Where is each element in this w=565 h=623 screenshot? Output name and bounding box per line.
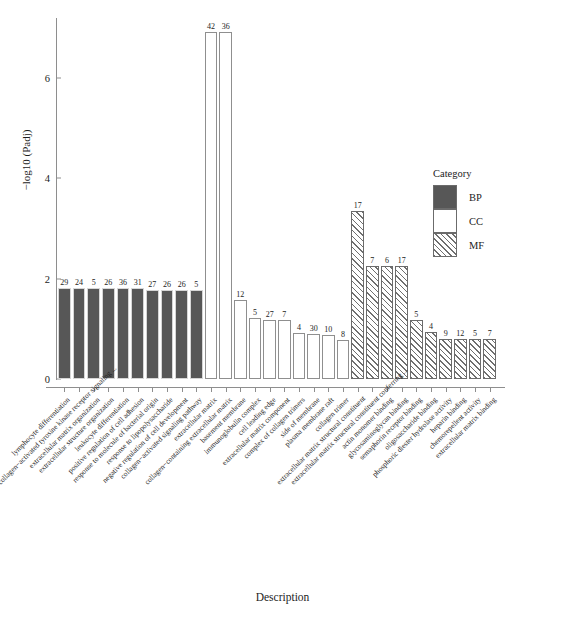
bar-mf[interactable]: 9 [439, 339, 452, 379]
x-tick-mark [240, 387, 241, 392]
bar-count-label: 27 [266, 311, 274, 321]
bar-count-label: 26 [104, 279, 112, 289]
legend-items: BPCCMF [433, 185, 553, 257]
bar-cc[interactable]: 7 [278, 320, 291, 379]
bar-cc[interactable]: 36 [219, 32, 232, 379]
x-tick-mark [460, 387, 461, 392]
legend-label: MF [469, 240, 484, 251]
x-tick-mark [196, 387, 197, 392]
bar-count-label: 5 [414, 311, 418, 321]
x-tick-mark [79, 387, 80, 392]
x-tick-mark [372, 387, 373, 392]
bar-mf[interactable]: 17 [351, 211, 364, 379]
bar-count-label: 4 [297, 324, 301, 334]
y-axis-label: −log10 (Padj) [20, 130, 32, 191]
bar-count-label: 7 [488, 330, 492, 340]
bar-count-label: 7 [370, 257, 374, 267]
bar-count-label: 5 [194, 281, 198, 291]
x-tick-mark [490, 387, 491, 392]
x-tick-mark [475, 387, 476, 392]
y-tick-label: 0 [28, 374, 56, 385]
x-tick-mark [402, 387, 403, 392]
legend-title: Category [433, 168, 553, 179]
bar-bp[interactable]: 27 [146, 290, 159, 379]
bar-count-label: 6 [385, 257, 389, 267]
x-tick-mark [226, 387, 227, 392]
bar-cc[interactable]: 42 [205, 32, 218, 379]
y-tick-label: 6 [28, 73, 56, 84]
bar-count-label: 5 [253, 309, 257, 319]
x-axis-label: Description [0, 591, 565, 603]
legend-label: BP [469, 192, 482, 203]
bar-count-label: 30 [310, 325, 318, 335]
bar-bp[interactable]: 36 [117, 288, 130, 379]
bar-mf[interactable]: 4 [425, 332, 438, 379]
bar-count-label: 8 [341, 331, 345, 341]
x-tick-mark [270, 387, 271, 392]
bar-mf[interactable]: 5 [410, 320, 423, 379]
bar-count-label: 36 [119, 279, 127, 289]
bar-cc[interactable]: 10 [322, 335, 335, 379]
go-enrichment-bar-chart: 0246 −log10 (Padj) 292452636312726265423… [0, 0, 565, 623]
legend-item-cc[interactable]: CC [433, 209, 553, 233]
x-tick-mark [138, 387, 139, 392]
bar-cc[interactable]: 4 [293, 333, 306, 379]
bar-count-label: 26 [178, 281, 186, 291]
plot-area: 2924526363127262654236125277430108177617… [57, 18, 497, 379]
bar-mf[interactable]: 17 [395, 266, 408, 379]
bar-mf[interactable]: 7 [483, 339, 496, 379]
bar-cc[interactable]: 27 [263, 320, 276, 379]
bar-cc[interactable]: 8 [337, 340, 350, 379]
bar-count-label: 26 [163, 281, 171, 291]
x-tick-mark [123, 387, 124, 392]
bar-bp[interactable]: 26 [161, 290, 174, 379]
bar-count-label: 29 [60, 279, 68, 289]
x-tick-mark [108, 387, 109, 392]
bar-mf[interactable]: 12 [454, 339, 467, 379]
x-axis-line [46, 387, 505, 388]
bar-cc[interactable]: 30 [307, 334, 320, 379]
x-tick-mark [255, 387, 256, 392]
x-tick-mark [167, 387, 168, 392]
x-tick-mark [64, 387, 65, 392]
bar-bp[interactable]: 5 [190, 290, 203, 379]
bar-bp[interactable]: 31 [131, 288, 144, 379]
bar-count-label: 10 [324, 326, 332, 336]
y-tick-label: 2 [28, 273, 56, 284]
bar-count-label: 17 [354, 202, 362, 212]
x-tick-mark [284, 387, 285, 392]
x-tick-mark [314, 387, 315, 392]
bar-bp[interactable]: 29 [58, 288, 71, 379]
bar-count-label: 17 [398, 257, 406, 267]
bar-count-label: 24 [75, 279, 83, 289]
legend-item-mf[interactable]: MF [433, 233, 553, 257]
legend-item-bp[interactable]: BP [433, 185, 553, 209]
bar-count-label: 7 [282, 311, 286, 321]
bar-mf[interactable]: 5 [469, 339, 482, 379]
bar-count-label: 12 [236, 291, 244, 301]
legend-swatch-bp [433, 185, 457, 209]
bar-bp[interactable]: 5 [87, 288, 100, 379]
bar-count-label: 12 [456, 330, 464, 340]
legend-label: CC [469, 216, 483, 227]
bar-bp[interactable]: 24 [73, 288, 86, 379]
bar-count-label: 42 [207, 23, 215, 33]
x-tick-mark [182, 387, 183, 392]
bar-count-label: 9 [444, 330, 448, 340]
bar-mf[interactable]: 6 [381, 266, 394, 379]
bar-mf[interactable]: 7 [366, 266, 379, 379]
bar-count-label: 5 [473, 330, 477, 340]
x-tick-mark [152, 387, 153, 392]
x-tick-mark [431, 387, 432, 392]
bar-cc[interactable]: 12 [234, 300, 247, 379]
x-tick-mark [446, 387, 447, 392]
x-tick-mark [343, 387, 344, 392]
x-tick-mark [328, 387, 329, 392]
legend: Category BPCCMF [433, 168, 553, 257]
x-tick-mark [211, 387, 212, 392]
x-tick-mark [358, 387, 359, 392]
bar-bp[interactable]: 26 [175, 290, 188, 379]
bar-count-label: 36 [222, 23, 230, 33]
bar-cc[interactable]: 5 [249, 318, 262, 379]
bar-count-label: 31 [134, 279, 142, 289]
